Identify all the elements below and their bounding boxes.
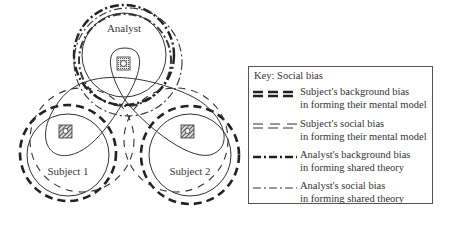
- key-item-line1: Analyst's background bias: [300, 148, 410, 161]
- thin-dash-dot-line-icon: [253, 182, 297, 194]
- key-item-line1: Subject's social bias: [300, 117, 427, 130]
- key-item-line1: Subject's background bias: [300, 85, 427, 98]
- key-item-analyst-social-bias: Analyst's social bias in forming shared …: [249, 179, 432, 207]
- shared-theory-trefoil: [46, 48, 225, 156]
- key-item-subject-background-bias: Subject's background bias in forming the…: [249, 85, 432, 113]
- heavy-dash-dot-line-icon: [253, 151, 297, 163]
- thin-dashed-line-icon: [253, 120, 297, 132]
- key-item-subject-social-bias: Subject's social bias in forming their m…: [249, 117, 432, 145]
- key-item-line2: in forming shared theory: [300, 161, 410, 174]
- analyst-label: Analyst: [107, 22, 141, 34]
- subject2-label: Subject 2: [169, 165, 210, 177]
- key-item-analyst-background-bias: Analyst's background bias in forming sha…: [249, 148, 432, 176]
- heavy-dashed-line-icon: [253, 88, 297, 100]
- key-item-line1: Analyst's social bias: [300, 179, 404, 192]
- key-item-line2: in forming their mental model: [300, 130, 427, 143]
- subject2-background-bias-circle: [141, 106, 239, 204]
- key-item-line2: in forming their mental model: [300, 98, 427, 111]
- subject1-label: Subject 1: [47, 165, 88, 177]
- key-item-line2: in forming shared theory: [300, 192, 404, 205]
- analyst-person-icon: [117, 57, 130, 70]
- key-legend: Key: Social bias Subject's background bi…: [248, 66, 433, 204]
- subject1-person-icon: [59, 125, 72, 138]
- subject2-person-icon: [181, 125, 194, 138]
- key-title: Key: Social bias: [254, 70, 323, 81]
